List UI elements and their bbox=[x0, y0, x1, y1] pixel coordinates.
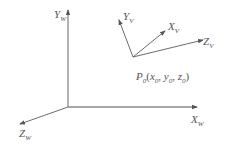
view-y-axis bbox=[119, 20, 133, 57]
point-label: P0(x0, y0, z0) bbox=[136, 71, 189, 85]
view-x-label: XV bbox=[168, 21, 179, 35]
world-y-label: YW bbox=[54, 9, 66, 23]
world-z-axis bbox=[20, 107, 68, 124]
world-x-label: XW bbox=[191, 114, 204, 128]
view-y-label: YV bbox=[123, 11, 133, 25]
world-z-label: ZW bbox=[19, 128, 31, 142]
view-z-label: ZV bbox=[203, 36, 213, 50]
